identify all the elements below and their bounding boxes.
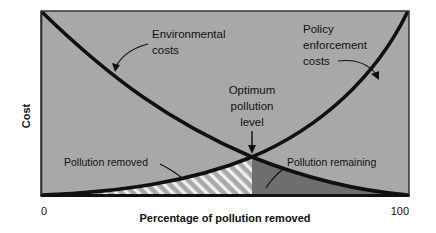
optimum-label-line2: pollution [231, 100, 274, 112]
environmental-costs-label-line1: Environmental [152, 28, 226, 40]
environmental-costs-label-line2: costs [152, 44, 179, 56]
policy-enforcement-label-line1: Policy [303, 23, 334, 35]
pollution-remaining-label: Pollution remaining [287, 156, 376, 168]
policy-enforcement-label-line2: enforcement [303, 39, 368, 51]
x-tick-label-right: 100 [391, 205, 409, 217]
optimum-label-line3: level [240, 116, 264, 128]
optimum-label-line1: Optimum [229, 84, 276, 96]
chart-figure: Environmental costs Policy enforcement c… [0, 0, 436, 233]
pollution-removed-label: Pollution removed [64, 156, 148, 168]
policy-enforcement-label-line3: costs [303, 55, 330, 67]
pollution-cost-chart: Environmental costs Policy enforcement c… [0, 0, 436, 233]
x-axis-label: Percentage of pollution removed [139, 212, 310, 224]
y-axis-label: Cost [20, 103, 32, 128]
x-tick-label-left: 0 [41, 205, 47, 217]
